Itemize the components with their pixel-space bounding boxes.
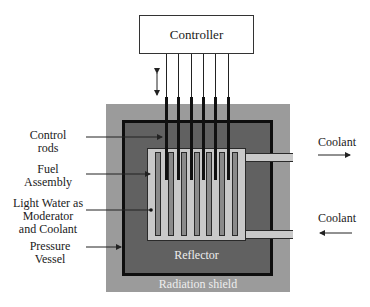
leader-arrows — [0, 0, 370, 307]
